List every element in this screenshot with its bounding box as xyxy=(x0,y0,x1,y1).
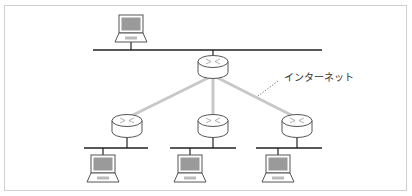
branch-router-icon xyxy=(198,115,228,138)
top-laptop-icon xyxy=(115,15,147,42)
internet-label: インターネット xyxy=(284,72,354,83)
branch-laptop-icon xyxy=(87,155,119,182)
core-router-icon xyxy=(198,56,228,79)
branch-router-icon xyxy=(282,115,312,138)
network-devices xyxy=(87,15,312,182)
leader-line xyxy=(258,81,278,96)
branch-laptop-icon xyxy=(174,155,206,182)
internet-links xyxy=(127,76,297,119)
branch-router-icon xyxy=(112,115,142,138)
internet-link xyxy=(127,76,213,119)
branch-laptop-icon xyxy=(262,155,294,182)
internet-annotation: インターネット xyxy=(258,72,354,96)
network-diagram: インターネット xyxy=(0,0,412,196)
